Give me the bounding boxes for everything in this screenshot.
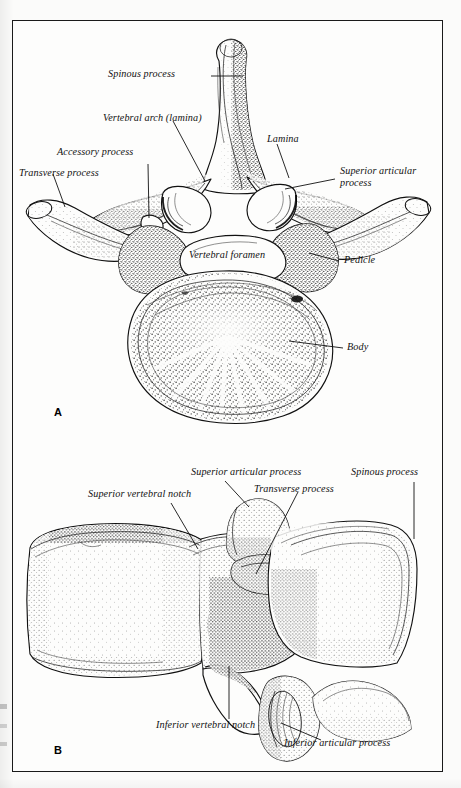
label-inferior-vertebral-notch-b: Inferior vertebral notch: [156, 719, 255, 731]
label-body-a: Body: [347, 341, 368, 353]
panel-letter-b: B: [54, 744, 62, 756]
label-transverse-process-a: Transverse process: [19, 167, 99, 179]
label-vertebral-foramen-a: Vertebral foramen: [189, 249, 265, 261]
label-superior-articular-process-b: Superior articular process: [191, 466, 301, 478]
page-edge-artifact: [0, 704, 7, 709]
page-edge-artifact: [0, 742, 7, 746]
panel-a: Spinous process Vertebral arch (lamina) …: [13, 21, 442, 429]
page-edge-artifact: [0, 724, 7, 728]
label-spinous-process-a: Spinous process: [108, 68, 175, 80]
figure-frame: Spinous process Vertebral arch (lamina) …: [12, 20, 443, 772]
label-inferior-articular-process-b: Inferior articular process: [284, 737, 390, 749]
scanned-page: Spinous process Vertebral arch (lamina) …: [0, 0, 461, 788]
label-transverse-process-b: Transverse process: [254, 483, 334, 495]
label-superior-vertebral-notch-b: Superior vertebral notch: [88, 488, 191, 500]
panel-b: Superior vertebral notch Superior articu…: [13, 429, 442, 773]
label-vertebral-arch-a: Vertebral arch (lamina): [103, 112, 202, 124]
label-accessory-process-a: Accessory process: [57, 146, 133, 158]
panel-letter-a: A: [54, 406, 62, 418]
label-superior-articular-process-a: Superior articular process: [340, 165, 436, 189]
label-lamina-a: Lamina: [267, 133, 299, 145]
label-spinous-process-b: Spinous process: [351, 466, 418, 478]
vertebra-superior-view-drawing: [13, 21, 444, 429]
label-pedicle-a: Pedicle: [344, 254, 375, 266]
